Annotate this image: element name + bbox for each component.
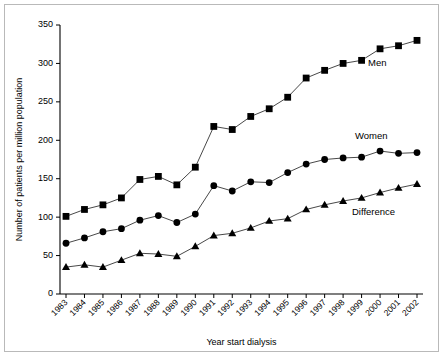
series-difference: [62, 180, 421, 270]
data-point-circle: [192, 211, 199, 218]
x-tick-label: 1989: [160, 297, 181, 318]
data-point-circle: [284, 169, 291, 176]
data-point-square: [155, 173, 162, 180]
y-tick-label: 350: [38, 19, 53, 29]
data-point-square: [303, 75, 310, 82]
y-tick-label: 250: [38, 96, 53, 106]
data-point-triangle: [247, 224, 255, 231]
x-tick-label: 1997: [308, 297, 329, 318]
data-point-circle: [358, 154, 365, 161]
x-tick-label: 1990: [178, 297, 199, 318]
data-point-square: [284, 94, 291, 101]
data-point-square: [266, 105, 273, 112]
x-tick-label: 1983: [49, 297, 70, 318]
line-chart: 050100150200250300350 198319841985198619…: [0, 0, 443, 356]
x-tick-label: 1999: [345, 297, 366, 318]
data-point-circle: [155, 212, 162, 219]
data-series-group: [62, 37, 421, 270]
series-label-difference: Difference: [352, 206, 395, 217]
x-tick-label: 1985: [86, 297, 107, 318]
y-tick-label: 50: [43, 250, 53, 260]
data-point-circle: [303, 161, 310, 168]
data-point-circle: [100, 228, 107, 235]
x-tick-label: 1991: [197, 297, 218, 318]
data-point-triangle: [284, 215, 292, 222]
series-women: [63, 148, 421, 247]
data-point-circle: [377, 148, 384, 155]
x-tick-label: 1995: [271, 297, 292, 318]
data-point-square: [395, 42, 402, 49]
data-point-circle: [414, 149, 421, 156]
series-labels-group: MenWomenDifference: [352, 57, 395, 217]
data-point-circle: [395, 150, 402, 157]
data-point-circle: [229, 188, 236, 195]
data-point-square: [173, 181, 180, 188]
y-tick-label: 150: [38, 173, 53, 183]
x-tick-label: 1988: [141, 297, 162, 318]
data-point-circle: [210, 182, 217, 189]
data-point-circle: [321, 156, 328, 163]
y-tick-label: 0: [48, 288, 53, 298]
data-point-square: [136, 176, 143, 183]
data-point-triangle: [136, 249, 144, 256]
data-point-circle: [118, 225, 125, 232]
data-point-square: [192, 164, 199, 171]
x-tick-label: 2001: [381, 297, 402, 318]
data-point-circle: [340, 155, 347, 162]
data-point-circle: [63, 240, 70, 247]
x-tick-label: 2002: [400, 297, 421, 318]
data-point-square: [340, 60, 347, 67]
data-point-triangle: [191, 242, 199, 249]
data-point-square: [229, 126, 236, 133]
data-point-square: [377, 45, 384, 52]
y-tick-label: 300: [38, 58, 53, 68]
series-line-men: [66, 40, 417, 216]
x-tick-label: 1994: [252, 297, 273, 318]
data-point-triangle: [80, 261, 88, 268]
y-axis: 050100150200250300350: [38, 19, 60, 298]
data-point-triangle: [413, 180, 421, 187]
x-tick-label: 1996: [289, 297, 310, 318]
series-label-women: Women: [355, 130, 388, 141]
x-tick-label: 1992: [215, 297, 236, 318]
x-axis-title: Year start dialysis: [206, 337, 277, 347]
y-tick-label: 100: [38, 212, 53, 222]
x-tick-label: 1993: [234, 297, 255, 318]
data-point-square: [63, 213, 70, 220]
data-point-square: [321, 67, 328, 74]
series-men: [63, 37, 421, 220]
data-point-square: [118, 195, 125, 202]
data-point-circle: [247, 178, 254, 185]
data-point-circle: [136, 217, 143, 224]
data-point-square: [358, 57, 365, 64]
x-tick-label: 1998: [326, 297, 347, 318]
data-point-square: [81, 206, 88, 213]
x-tick-label: 1987: [123, 297, 144, 318]
data-point-square: [210, 123, 217, 130]
x-tick-label: 1984: [67, 297, 88, 318]
data-point-circle: [81, 234, 88, 241]
data-point-square: [414, 37, 421, 44]
data-point-triangle: [117, 256, 125, 263]
x-tick-label: 1986: [104, 297, 125, 318]
data-point-square: [100, 201, 107, 208]
x-tick-label: 2000: [363, 297, 384, 318]
y-tick-label: 200: [38, 135, 53, 145]
y-axis-title: Number of patients per million populatio…: [14, 78, 24, 242]
data-point-circle: [266, 179, 273, 186]
x-axis: 1983198419851986198719881989199019911992…: [49, 294, 423, 318]
chart-figure: 050100150200250300350 198319841985198619…: [0, 0, 443, 356]
data-point-circle: [173, 219, 180, 226]
data-point-square: [247, 113, 254, 120]
series-label-men: Men: [368, 57, 386, 68]
